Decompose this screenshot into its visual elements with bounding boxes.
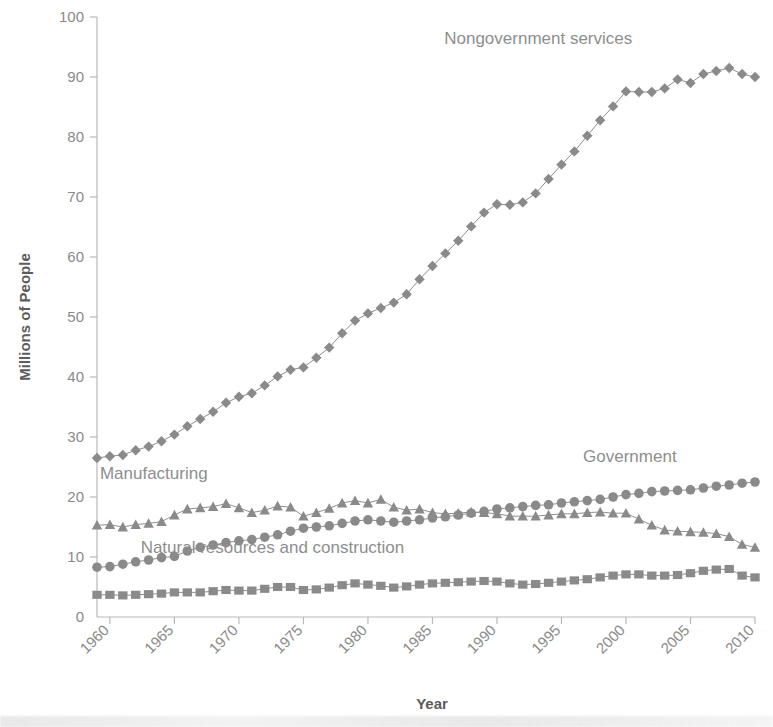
y-axis-title: Millions of People: [16, 253, 33, 381]
data-marker-square: [234, 587, 243, 595]
data-marker-circle: [724, 480, 734, 490]
data-marker-diamond: [634, 87, 644, 97]
data-marker-triangle: [221, 498, 231, 508]
data-marker-square: [221, 586, 230, 594]
data-marker-circle: [105, 562, 115, 572]
x-axis: 1960196519701975198019851990199520002005…: [76, 617, 757, 657]
y-tick-label: 60: [67, 248, 84, 265]
data-marker-circle: [492, 504, 502, 514]
data-marker-square: [428, 579, 437, 587]
data-marker-triangle: [659, 525, 669, 535]
data-marker-circle: [363, 515, 373, 525]
data-marker-diamond: [169, 429, 179, 439]
data-marker-circle: [660, 486, 670, 496]
data-marker-triangle: [414, 504, 424, 514]
data-marker-triangle: [647, 520, 657, 530]
series-3: [92, 477, 760, 572]
data-marker-square: [737, 572, 746, 580]
data-marker-square: [750, 573, 759, 581]
data-marker-triangle: [156, 516, 166, 526]
x-tick-label: 1970: [205, 621, 241, 657]
data-marker-diamond: [234, 392, 244, 402]
data-marker-circle: [415, 515, 425, 525]
data-marker-circle: [118, 559, 128, 569]
data-marker-circle: [686, 485, 696, 495]
data-marker-diamond: [195, 414, 205, 424]
data-marker-square: [273, 583, 282, 591]
y-tick-label: 70: [67, 188, 84, 205]
data-marker-square: [337, 581, 346, 589]
data-marker-diamond: [92, 453, 102, 463]
data-marker-circle: [389, 517, 399, 527]
data-marker-diamond: [363, 308, 373, 318]
data-marker-circle: [453, 510, 463, 520]
data-marker-diamond: [208, 407, 218, 417]
y-axis: 0102030405060708090100: [59, 8, 97, 625]
data-marker-square: [363, 581, 372, 589]
data-marker-square: [492, 578, 501, 586]
data-marker-triangle: [634, 514, 644, 524]
data-marker-square: [260, 585, 269, 593]
data-marker-square: [570, 576, 579, 584]
data-marker-circle: [92, 562, 102, 572]
data-marker-triangle: [234, 503, 244, 513]
data-marker-square: [170, 588, 179, 596]
data-marker-diamond: [156, 436, 166, 446]
data-marker-square: [196, 588, 205, 596]
data-marker-diamond: [685, 78, 695, 88]
x-axis-title: Year: [416, 695, 448, 712]
data-marker-square: [118, 591, 127, 599]
y-tick-label: 30: [67, 428, 84, 445]
series-label-1: Nongovernment services: [444, 29, 632, 48]
data-marker-diamond: [737, 69, 747, 79]
data-marker-diamond: [285, 365, 295, 375]
y-tick-label: 40: [67, 368, 84, 385]
y-tick-label: 100: [59, 8, 84, 25]
data-marker-circle: [376, 516, 386, 526]
data-marker-circle: [131, 557, 141, 567]
x-tick-label: 1975: [270, 621, 306, 657]
data-marker-square: [673, 571, 682, 579]
data-marker-diamond: [131, 445, 141, 455]
data-marker-square: [389, 584, 398, 592]
x-tick-label: 2010: [722, 621, 758, 657]
data-marker-diamond: [376, 303, 386, 313]
data-marker-circle: [299, 523, 309, 533]
series-line: [97, 68, 755, 458]
x-tick-label: 1965: [141, 621, 177, 657]
y-tick-label: 90: [67, 68, 84, 85]
series-label-2: Manufacturing: [100, 464, 208, 483]
data-marker-square: [699, 567, 708, 575]
data-marker-triangle: [324, 503, 334, 513]
data-marker-square: [144, 590, 153, 598]
series-1: [92, 63, 760, 463]
data-marker-square: [518, 581, 527, 589]
x-tick-label: 2000: [592, 621, 628, 657]
data-marker-circle: [312, 522, 322, 532]
data-marker-diamond: [711, 66, 721, 76]
data-marker-square: [621, 570, 630, 578]
data-marker-diamond: [724, 63, 734, 73]
data-marker-diamond: [311, 353, 321, 363]
y-tick-label: 10: [67, 548, 84, 565]
data-marker-circle: [750, 477, 760, 487]
data-marker-circle: [582, 496, 592, 506]
data-marker-diamond: [672, 74, 682, 84]
data-marker-circle: [557, 498, 567, 508]
data-marker-triangle: [298, 511, 308, 521]
data-marker-square: [208, 587, 217, 595]
data-marker-circle: [531, 501, 541, 511]
data-marker-square: [131, 591, 140, 599]
data-marker-square: [105, 591, 114, 599]
page-edge-artifact: [0, 716, 773, 727]
data-marker-square: [686, 569, 695, 577]
data-marker-triangle: [595, 507, 605, 517]
data-marker-square: [634, 570, 643, 578]
data-marker-square: [595, 573, 604, 581]
data-marker-square: [505, 579, 514, 587]
data-marker-diamond: [518, 197, 528, 207]
x-tick-label: 1990: [463, 621, 499, 657]
data-marker-square: [415, 581, 424, 589]
data-marker-square: [286, 583, 295, 591]
data-marker-diamond: [105, 451, 115, 461]
